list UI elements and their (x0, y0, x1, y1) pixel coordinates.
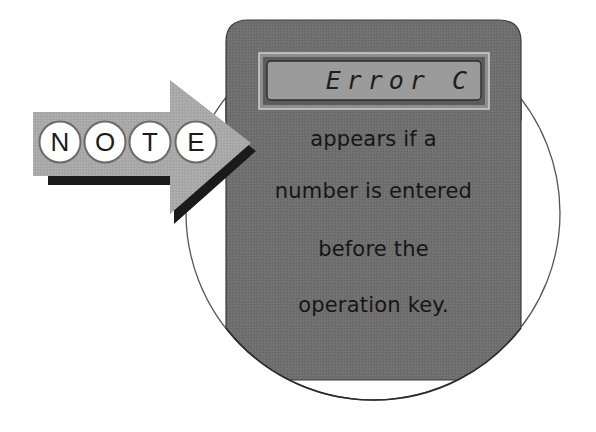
message-line-2: number is entered (226, 179, 521, 203)
message-line-4: operation key. (226, 293, 521, 317)
note-letter-n: N (40, 122, 80, 162)
note-letter-o: O (85, 122, 125, 162)
message-line-1: appears if a (226, 127, 521, 151)
note-letter-t: T (130, 122, 170, 162)
lcd-error-text: Error C (268, 64, 473, 98)
message-line-3: before the (226, 237, 521, 261)
note-letter-e: E (176, 122, 216, 162)
